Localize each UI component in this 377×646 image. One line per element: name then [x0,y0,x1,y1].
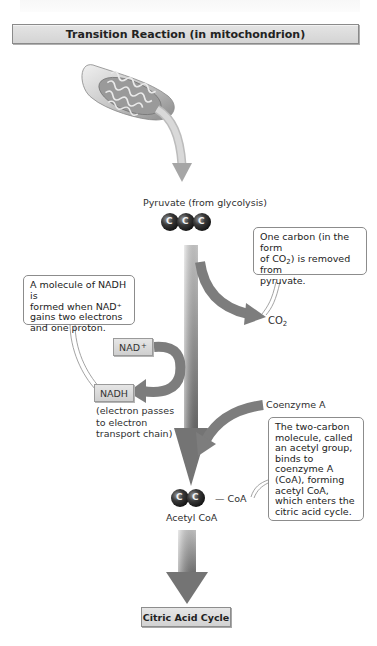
nadh-callout: A molecule of NADH is formed when NAD⁺ g… [23,275,135,325]
acetyl-callout: The two-carbon molecule, called an acety… [268,417,364,521]
coenzyme-a-label: Coenzyme A [266,399,326,410]
pyruvate-label: Pyruvate (from glycolysis) [143,197,267,208]
acetyl-callout-pointer [251,480,268,497]
citric-acid-cycle-box: Citric Acid Cycle [141,607,231,627]
co2-callout-line: pyruvate. [260,276,360,287]
nadh-note: (electron passes to electron transport c… [96,405,174,440]
citric-acid-cycle-label: Citric Acid Cycle [143,612,230,623]
mitochondrion-to-pyruvate-arrow-icon [157,109,192,182]
acetyl-callout-pointer-outer [254,483,268,498]
to-citric-acid-cycle-arrow-icon [166,530,208,604]
coa-tag: — CoA [215,493,246,504]
acetyl-coa-label: Acetyl CoA [166,512,217,523]
carbon-letter: C [166,216,173,227]
co2-callout-line: One carbon (in the form [260,232,360,254]
nadh-callout-line: and one proton. [30,323,128,334]
carbon-letter: C [182,216,189,227]
carbon-letter: C [192,492,199,503]
co2-callout: One carbon (in the form of CO2) is remov… [253,227,367,275]
nadh-chip: NADH [94,384,134,402]
co2-callout-line: of CO2) is removed from [260,254,360,277]
nadh-callout-line: A molecule of NADH is [30,280,128,302]
nad-plus-chip: NAD+ [113,338,153,356]
co2-label: CO2 [268,315,287,328]
carbon-letter: C [176,492,183,503]
carbon-letter: C [198,216,205,227]
coenzyme-a-arrow-icon [196,405,263,456]
